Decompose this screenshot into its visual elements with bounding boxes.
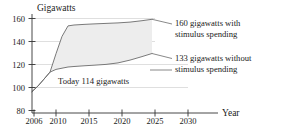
x-tick-label-2030: 2030 xyxy=(180,116,197,126)
renewable-capacity-line-chart: Gigawatts 160 140 120 100 80 2006 2010 2… xyxy=(0,0,282,139)
y-tick-label-120: 120 xyxy=(12,60,25,70)
x-tick-label-2010: 2010 xyxy=(50,116,67,126)
y-tick-label-100: 100 xyxy=(12,83,25,93)
annotation-without-stimulus-line2: stimulus spending xyxy=(175,64,238,74)
annotation-without-stimulus-line1: 133 gigawatts without xyxy=(175,53,252,63)
annotation-today: Today 114 gigawatts xyxy=(58,76,130,86)
chart-container: Gigawatts 160 140 120 100 80 2006 2010 2… xyxy=(0,0,282,139)
x-tick-label-2015: 2015 xyxy=(81,116,98,126)
leader-line-with-stimulus xyxy=(152,19,172,24)
x-tick-label-2025: 2025 xyxy=(147,116,164,126)
y-tick-label-140: 140 xyxy=(12,37,25,47)
x-tick-label-2020: 2020 xyxy=(114,116,131,126)
x-axis-title: Year xyxy=(222,108,240,118)
annotation-with-stimulus-line1: 160 gigawatts with xyxy=(175,18,241,28)
annotation-with-stimulus-line2: stimulus spending xyxy=(175,29,238,39)
y-axis-title: Gigawatts xyxy=(37,3,76,13)
y-tick-label-160: 160 xyxy=(12,14,25,24)
x-tick-label-2006: 2006 xyxy=(26,116,43,126)
leader-line-without-stimulus xyxy=(152,54,172,59)
y-tick-label-80: 80 xyxy=(17,106,26,116)
